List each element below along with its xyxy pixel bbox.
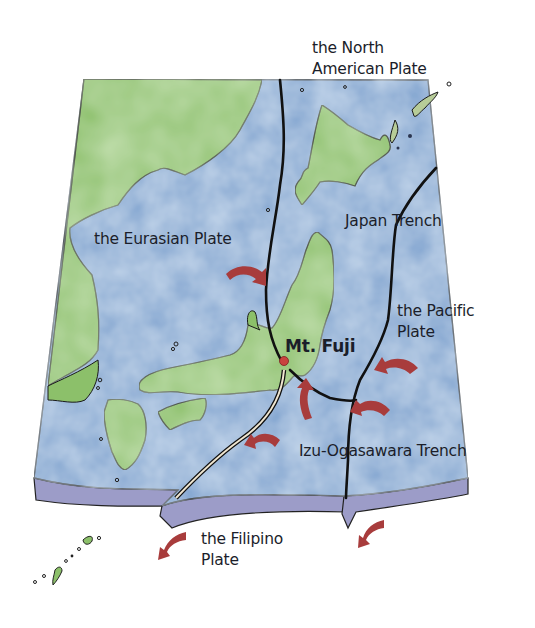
arrow-pacific-subduct [358, 520, 384, 548]
ryukyu-islands [34, 536, 101, 585]
label-north-american-plate: the North American Plate [312, 38, 427, 80]
label-japan-trench: Japan Trench [345, 211, 442, 232]
arrow-filipino-subduct [158, 532, 186, 560]
mt-fuji-marker [280, 357, 289, 366]
label-pacific-plate: the Pacific Plate [397, 301, 474, 343]
label-izu-ogasawara-trench: Izu-Ogasawara Trench [299, 441, 467, 462]
label-eurasian-plate: the Eurasian Plate [94, 229, 232, 250]
label-mt-fuji: Mt. Fuji [285, 336, 355, 357]
label-filipino-plate: the Filipino Plate [201, 529, 283, 571]
